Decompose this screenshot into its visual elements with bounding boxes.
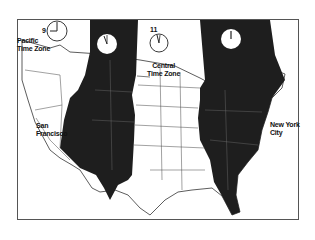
- central-zone-label: Central Time Zone: [147, 62, 180, 78]
- us-time-zone-map: [0, 0, 315, 240]
- central-clock-icon: [150, 34, 168, 52]
- city-label-san-francisco: San Francisco: [36, 122, 67, 138]
- city-label-new-york: New York City: [270, 121, 300, 137]
- mountain-clock-icon: [97, 34, 117, 54]
- central-hour: 11: [150, 26, 157, 33]
- eastern-clock-icon: [221, 29, 241, 49]
- pacific-hour: 9: [42, 27, 46, 34]
- pacific-zone-label: Pacific Time Zone: [17, 37, 50, 53]
